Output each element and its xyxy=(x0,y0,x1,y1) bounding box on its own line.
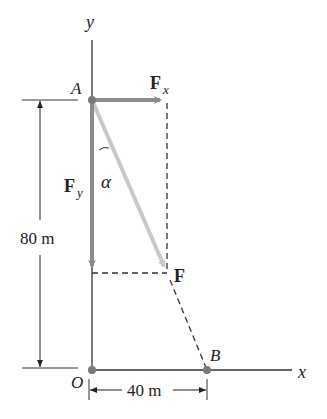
dim-horizontal-label: 40 m xyxy=(127,381,161,400)
point-b-dot xyxy=(203,366,211,374)
fx-label-sub: x xyxy=(162,82,169,97)
force-diagram: y x A B O F x F y F α 80 m 40 m xyxy=(0,0,327,419)
angle-arc xyxy=(99,147,109,150)
point-o-dot xyxy=(88,366,96,374)
fy-label-sub: y xyxy=(75,185,83,200)
point-o-label: O xyxy=(71,373,83,392)
y-axis-label: y xyxy=(84,12,94,32)
angle-alpha-label: α xyxy=(101,171,112,192)
x-axis-label: x xyxy=(297,362,306,382)
dashed-line-to-b xyxy=(170,280,207,370)
dim-vertical-label: 80 m xyxy=(20,229,54,248)
point-a-dot xyxy=(88,96,96,104)
point-a-label: A xyxy=(70,79,82,98)
point-b-label: B xyxy=(210,346,221,365)
fx-label-main: F xyxy=(150,73,161,93)
resultant-force-label: F xyxy=(174,266,185,286)
fy-label-main: F xyxy=(64,176,75,196)
